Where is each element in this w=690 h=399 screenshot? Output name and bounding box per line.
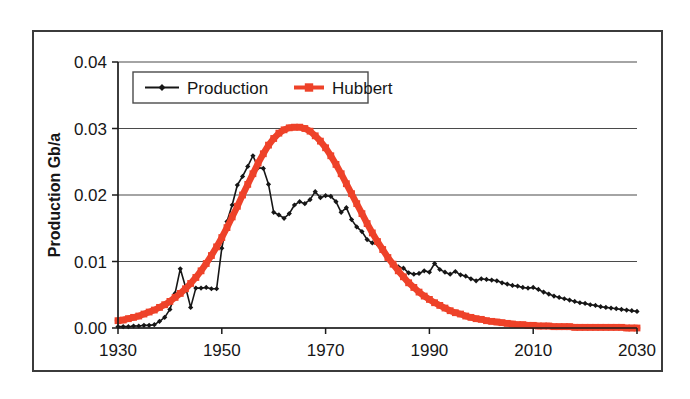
data-point-marker [614,306,619,311]
data-point-marker [208,252,215,259]
data-point-marker [567,297,572,302]
series-hubbert [115,124,641,332]
data-point-marker [598,304,603,309]
data-point-marker [515,284,520,289]
data-point-marker [572,299,577,304]
data-point-marker [333,161,340,168]
data-point-marker [250,170,257,177]
y-tick-label: 0.04 [74,53,107,72]
data-point-marker [379,246,386,253]
data-point-marker [353,200,360,207]
chart-canvas: 0.000.010.020.030.04 1930195019701990201… [0,0,690,399]
data-point-marker [255,160,262,167]
data-point-marker [489,278,494,283]
y-tick-label: 0.03 [74,120,107,139]
data-point-marker [384,254,391,261]
data-point-marker [198,267,205,274]
data-point-marker [557,295,562,300]
chart-legend: ProductionHubbert [133,72,393,103]
data-point-marker [588,302,593,307]
x-axis-tick-labels: 193019501970199020102030 [99,341,656,360]
data-point-marker [520,285,525,290]
data-point-marker [323,193,328,198]
data-point-marker [187,280,194,287]
data-point-marker [484,277,489,282]
data-point-marker [198,286,203,291]
data-point-marker [562,296,567,301]
legend-marker-square [305,83,313,91]
data-point-marker [593,303,598,308]
x-tick-label: 1930 [99,341,137,360]
data-point-marker [359,210,366,217]
data-point-marker [214,286,219,291]
data-point-marker [261,166,266,171]
data-point-marker [577,300,582,305]
data-point-marker [583,301,588,306]
x-tick-label: 2010 [514,341,552,360]
data-point-marker [499,280,504,285]
data-point-marker [608,305,613,310]
data-point-marker [400,273,407,280]
data-point-marker [224,224,231,231]
data-point-marker [338,170,345,177]
data-point-marker [213,243,220,250]
data-point-marker [260,150,267,157]
data-series [115,124,641,332]
data-point-marker [634,309,639,314]
y-tick-label: 0.02 [74,186,107,205]
data-point-marker [266,182,271,187]
data-point-marker [603,305,608,310]
data-point-marker [505,282,510,287]
y-tick-label: 0.01 [74,253,107,272]
data-point-marker [234,203,241,210]
y-axis-title: Production Gb/a [46,133,63,258]
data-point-marker [229,214,236,221]
data-point-marker [629,308,634,313]
x-tick-label: 2030 [618,341,656,360]
data-point-marker [395,267,402,274]
x-tick-label: 1950 [203,341,241,360]
data-point-marker [188,305,193,310]
data-point-marker [218,234,225,241]
data-point-marker [343,180,350,187]
data-point-marker [546,291,551,296]
data-point-marker [203,260,210,267]
data-point-marker [178,266,183,271]
data-point-marker [369,230,376,237]
x-tick-label: 1990 [410,341,448,360]
data-point-marker [317,138,324,145]
data-point-marker [322,144,329,151]
data-point-marker [510,283,515,288]
y-axis-title-text: Production Gb/a [46,133,63,258]
data-point-marker [192,274,199,281]
data-point-marker [619,307,624,312]
data-point-marker [479,276,484,281]
chart-figure: 0.000.010.020.030.04 1930195019701990201… [0,0,690,399]
legend-label: Production [187,79,268,98]
data-point-marker [250,153,255,158]
y-tick-label: 0.00 [74,319,107,338]
data-point-marker [551,293,556,298]
data-point-marker [531,285,536,290]
data-point-marker [374,238,381,245]
y-axis-tick-labels: 0.000.010.020.030.04 [74,53,107,338]
data-point-marker [327,152,334,159]
data-point-marker [239,192,246,199]
data-point-marker [624,307,629,312]
data-point-marker [209,286,214,291]
data-point-marker [204,285,209,290]
data-point-marker [348,190,355,197]
x-tick-label: 1970 [307,341,345,360]
data-point-marker [265,142,272,149]
data-point-marker [390,261,397,268]
data-point-marker [525,286,530,291]
legend-label: Hubbert [332,79,393,98]
data-point-marker [411,272,416,277]
data-point-marker [244,181,251,188]
data-point-marker [474,278,479,283]
data-point-marker [364,220,371,227]
data-point-marker [494,278,499,283]
